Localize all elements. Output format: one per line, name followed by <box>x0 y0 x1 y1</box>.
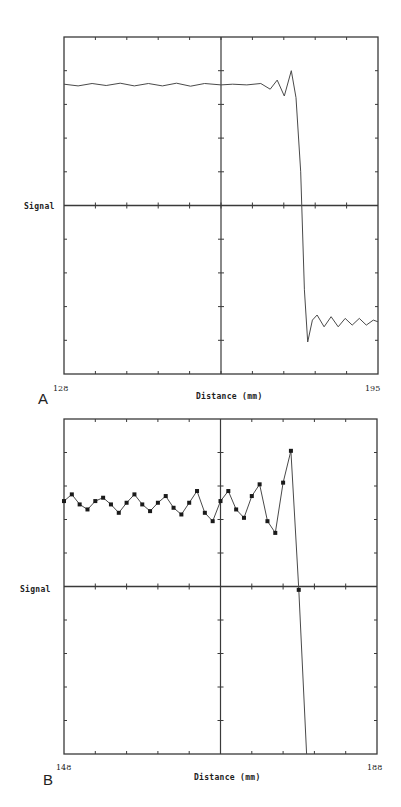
data-point-marker <box>258 482 262 486</box>
data-point-marker <box>297 588 301 592</box>
data-point-marker <box>85 507 89 511</box>
data-point-marker <box>132 492 136 496</box>
signal-line <box>64 451 307 754</box>
data-point-marker <box>125 501 129 505</box>
x-axis-min-label-a: 128 <box>53 384 68 393</box>
chart-panel-a: Signal 128 195 Distance (mm) A <box>0 0 401 405</box>
data-point-marker <box>250 494 254 498</box>
data-point-marker <box>78 502 82 506</box>
data-point-marker <box>148 509 152 513</box>
x-axis-label-b: Distance (mm) <box>194 773 261 782</box>
data-point-marker <box>273 531 277 535</box>
x-axis-label-a: Distance (mm) <box>196 392 263 401</box>
x-axis-max-label-b: 188 <box>367 763 382 772</box>
y-axis-label-b: Signal <box>20 585 51 594</box>
data-point-marker <box>281 481 285 485</box>
data-point-marker <box>101 496 105 500</box>
data-point-marker <box>219 499 223 503</box>
data-point-marker <box>156 501 160 505</box>
chart-b-plot-area <box>0 405 401 807</box>
chart-panel-b: Signal 148 188 Distance (mm) B <box>0 405 401 807</box>
data-point-marker <box>234 507 238 511</box>
data-point-marker <box>226 489 230 493</box>
x-axis-max-label-a: 195 <box>365 384 380 393</box>
data-point-marker <box>172 506 176 510</box>
data-point-marker <box>164 494 168 498</box>
chart-a-plot-area <box>0 0 401 405</box>
data-point-marker <box>117 511 121 515</box>
data-point-marker <box>62 499 66 503</box>
x-axis-min-label-b: 148 <box>56 763 71 772</box>
data-point-marker <box>195 489 199 493</box>
data-point-marker <box>203 511 207 515</box>
data-point-marker <box>179 512 183 516</box>
data-point-marker <box>70 492 74 496</box>
panel-letter-b: B <box>43 771 53 788</box>
data-point-marker <box>265 519 269 523</box>
y-axis-label-a: Signal <box>24 202 55 211</box>
data-point-marker <box>140 502 144 506</box>
data-point-marker <box>211 519 215 523</box>
data-point-marker <box>289 449 293 453</box>
axes-frame <box>64 419 377 754</box>
axes-frame <box>64 37 378 374</box>
data-point-marker <box>109 502 113 506</box>
data-point-marker <box>187 501 191 505</box>
data-point-marker <box>242 516 246 520</box>
data-point-marker <box>93 499 97 503</box>
